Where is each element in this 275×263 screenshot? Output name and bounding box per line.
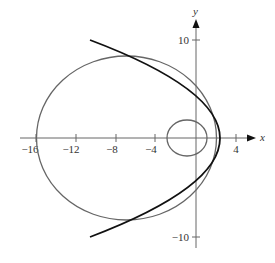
x-axis-label: x (259, 131, 265, 143)
x-tick-label: −8 (106, 143, 118, 155)
conic-sections-diagram: −16 −12 −8 −4 4 10 −10 x y (0, 0, 275, 263)
x-tick-label: −12 (62, 143, 79, 155)
x-axis-arrow-icon (247, 135, 256, 142)
x-tick-label: −4 (145, 143, 157, 155)
plot-area: −16 −12 −8 −4 4 10 −10 x y (0, 0, 275, 263)
y-tick-label: 10 (178, 34, 190, 46)
x-tick-label: 4 (233, 143, 239, 155)
y-axis-arrow-icon (193, 19, 200, 28)
y-tick-label: −10 (172, 231, 190, 243)
y-axis-label: y (192, 5, 198, 17)
